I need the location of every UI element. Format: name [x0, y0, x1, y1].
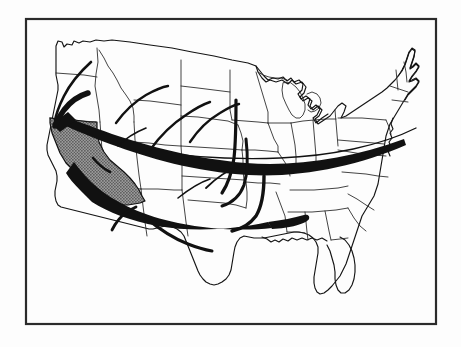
florida-peninsula [327, 237, 355, 293]
border-ny-pa [338, 118, 386, 120]
flow-mountain [190, 104, 239, 142]
border-nebraska-kansas [181, 146, 242, 150]
border-iowa-illinois [268, 123, 278, 152]
border-illinois-indiana [291, 123, 296, 166]
border-ky-tennessee [290, 186, 348, 190]
border-ohio-pennsylvania [335, 110, 338, 146]
figure-root: Migration flows into California Outline … [0, 0, 461, 347]
flow-mid-arc [178, 179, 210, 198]
border-newengland-states [390, 86, 408, 92]
flow-gulf [232, 176, 264, 231]
us-migration-map [0, 0, 461, 347]
border-oklahoma-arkansas [246, 182, 247, 208]
new-england-coast [398, 49, 419, 100]
border-georgia-carolina [348, 208, 366, 231]
border-tn-ms-al-ga [288, 208, 348, 212]
border-colorado-newmexico [141, 189, 182, 190]
border-wa-or-idaho [95, 48, 100, 122]
border-kansas-oklahoma [182, 176, 244, 180]
border-colorado-east [181, 146, 182, 190]
flow-plains-b [150, 102, 210, 150]
border-alabama-georgia [325, 211, 331, 240]
border-montana-wyoming [134, 100, 181, 105]
border-vt-nh [396, 70, 398, 90]
border-nebraska-iowa [238, 125, 243, 150]
border-dakotas-minnesota [230, 70, 232, 120]
border-minnesota-wisconsin [256, 72, 268, 123]
border-ma-ct [392, 100, 408, 102]
border-nc-virginia [342, 172, 388, 177]
border-oklahoma-texas [188, 200, 246, 208]
border-indiana-ohio [313, 120, 316, 166]
border-nd-sd [181, 86, 230, 92]
flow-main-lower-tail [268, 215, 309, 229]
border-idaho-montana [99, 50, 134, 122]
gulf-coast-louisiana [262, 237, 327, 242]
lake-michigan [282, 83, 305, 118]
